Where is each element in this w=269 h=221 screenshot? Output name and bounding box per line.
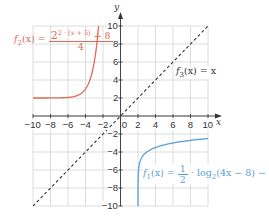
f2-curve	[33, 9, 100, 98]
f1-label: f1(x) = 1 2 · log2(4x − 8) − 5	[143, 164, 269, 184]
x-tick-label: −6	[62, 120, 73, 130]
y-tick-label: −2	[107, 129, 118, 139]
x-tick-label: 4	[153, 120, 158, 130]
y-tick-label: −6	[107, 165, 118, 175]
f3-label: f3(x) = x	[176, 66, 216, 79]
x-tick-label: −10	[25, 120, 41, 130]
y-tick-label: 4	[113, 75, 118, 85]
x-tick-label: 2	[135, 120, 140, 130]
x-axis-label: x	[216, 118, 221, 127]
x-tick-label: 8	[188, 120, 193, 130]
y-axis-label: y	[114, 3, 119, 12]
y-tick-label: −10	[102, 201, 118, 211]
f2-label: f2(x) = 22 · (x + 5) + 8 4	[14, 30, 113, 52]
x-tick-label: 6	[170, 120, 175, 130]
y-tick-label: 8	[113, 39, 118, 49]
x-tick-label: −8	[45, 120, 56, 130]
x-tick-label: 0	[122, 120, 127, 130]
y-tick-label: 2	[113, 93, 118, 103]
x-tick-label: 10	[202, 120, 213, 130]
y-tick-label: −4	[107, 147, 118, 157]
y-tick-label: 6	[113, 57, 118, 67]
y-tick-label: −8	[107, 183, 118, 193]
x-tick-label: −4	[80, 120, 91, 130]
